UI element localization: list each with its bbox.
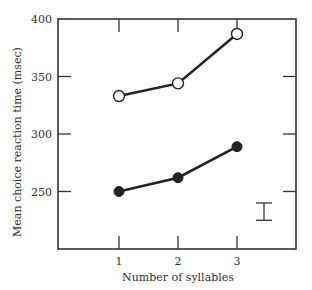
error-bar	[256, 203, 272, 220]
plot-border	[58, 19, 296, 249]
filled-circles-line	[119, 147, 237, 192]
y-axis-label: Mean choice reaction time (msec)	[11, 47, 24, 237]
filled-circle-marker	[114, 187, 124, 197]
plot-frame	[58, 19, 296, 249]
y-tick-label: 400	[31, 13, 52, 26]
y-tick-label: 350	[31, 71, 52, 84]
y-tick-label: 300	[31, 128, 52, 141]
chart-svg: 250300350400 123 Number of syllables Mea…	[0, 0, 312, 290]
filled-circle-marker	[232, 142, 242, 152]
x-tick-label: 3	[234, 255, 241, 268]
reaction-time-chart: 250300350400 123 Number of syllables Mea…	[0, 0, 312, 290]
y-tick-label: 250	[31, 186, 52, 199]
data-series	[114, 28, 243, 196]
x-tick-label: 2	[175, 255, 182, 268]
open-circle-marker	[114, 91, 125, 102]
filled-circle-marker	[173, 173, 183, 183]
x-axis-ticks: 123	[116, 19, 241, 268]
open-circle-marker	[173, 78, 184, 89]
x-axis-label: Number of syllables	[122, 271, 234, 284]
y-axis-ticks: 250300350400	[31, 13, 296, 199]
open-circle-marker	[232, 28, 243, 39]
x-tick-label: 1	[116, 255, 123, 268]
